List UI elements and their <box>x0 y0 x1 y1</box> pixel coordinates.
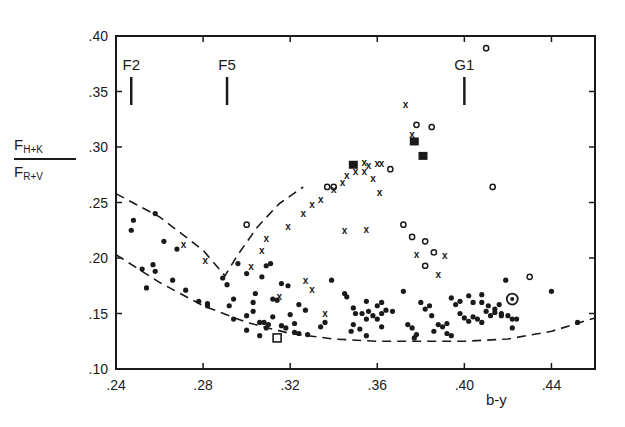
dot-point <box>429 313 434 318</box>
dot-point <box>174 247 179 252</box>
dot-point <box>257 333 262 338</box>
open-circle-point <box>388 167 393 172</box>
dot-point <box>401 289 406 294</box>
dot-point <box>575 320 580 325</box>
y-tick-label: .25 <box>89 195 109 211</box>
open-circle-point <box>431 250 436 255</box>
y-axis-label: FH+K FR+V <box>14 137 76 182</box>
cross-point: x <box>309 199 315 210</box>
dot-point <box>379 311 384 316</box>
dot-point <box>231 296 236 301</box>
dot-point <box>224 282 229 287</box>
x-tick-label: .24 <box>106 377 126 393</box>
cross-point: x <box>300 208 306 219</box>
data-points: xxxxxxxxxxxxxxxxxxxxxxxxxxxxxxx <box>129 46 581 342</box>
open-circle-point <box>325 184 330 189</box>
dot-point <box>449 295 454 300</box>
y-tick-label: .10 <box>89 361 109 377</box>
plot-border <box>116 36 595 369</box>
dot-point <box>375 303 380 308</box>
dot-point <box>449 333 454 338</box>
dot-point <box>196 299 201 304</box>
dot-point <box>479 300 484 305</box>
ringed-dot-inner <box>510 297 514 301</box>
dot-point <box>353 311 358 316</box>
spectral-type-markers: F2F5G1 <box>122 56 474 105</box>
y-tick-label: .40 <box>89 28 109 44</box>
y-label-numerator: FH+K <box>14 137 76 160</box>
dot-point <box>499 311 504 316</box>
dot-point <box>444 321 449 326</box>
dot-point <box>244 313 249 318</box>
cross-point: x <box>364 224 370 235</box>
dot-point <box>357 326 362 331</box>
dot-point <box>305 332 310 337</box>
x-tick-label: .36 <box>368 377 388 393</box>
y-axis-ticks: .10.15.20.25.30.35.40 <box>89 28 595 377</box>
y-tick-label: .30 <box>89 139 109 155</box>
cross-point: x <box>285 221 291 232</box>
dot-point <box>364 333 369 338</box>
x-tick-label: .28 <box>193 377 213 393</box>
dot-point <box>375 316 380 321</box>
dot-point <box>431 329 436 334</box>
open-square-point <box>273 334 281 342</box>
cross-point: x <box>181 239 187 250</box>
cross-point: x <box>435 269 441 280</box>
dot-point <box>379 300 384 305</box>
dot-point <box>475 316 480 321</box>
lower-boundary <box>116 255 595 342</box>
dot-point <box>364 299 369 304</box>
dot-point <box>486 303 491 308</box>
dot-point <box>349 329 354 334</box>
dot-point <box>370 313 375 318</box>
dot-point <box>405 322 410 327</box>
dot-point <box>497 302 502 307</box>
dot-point <box>457 299 462 304</box>
dot-point <box>270 314 275 319</box>
cross-point: x <box>403 99 409 110</box>
dot-point <box>235 261 240 266</box>
cross-point: x <box>379 158 385 169</box>
cross-point: x <box>303 275 309 286</box>
open-circle-point <box>244 222 249 227</box>
dot-point <box>462 315 467 320</box>
plot-frame <box>116 36 595 369</box>
dot-point <box>251 309 256 314</box>
cross-point: x <box>202 255 208 266</box>
x-axis-label: b-y <box>486 391 507 408</box>
open-circle-point <box>410 234 415 239</box>
cross-point: x <box>342 225 348 236</box>
dot-point <box>170 278 175 283</box>
dot-point <box>251 300 256 305</box>
dot-point <box>410 325 415 330</box>
dot-point <box>292 321 297 326</box>
cross-point: x <box>277 291 283 302</box>
dot-point <box>140 267 145 272</box>
dot-point <box>292 330 297 335</box>
dot-point <box>479 292 484 297</box>
spectral-marker-label: F5 <box>218 56 236 73</box>
y-tick-label: .20 <box>89 250 109 266</box>
scatter-chart: .24.28.32.36.40.44 .10.15.20.25.30.35.40… <box>0 0 625 427</box>
y-tick-label: .35 <box>89 84 109 100</box>
dot-point <box>383 308 388 313</box>
cross-point: x <box>344 170 350 181</box>
filled-square-point <box>349 161 358 169</box>
cross-point: x <box>309 284 315 295</box>
dot-point <box>161 239 166 244</box>
dot-point <box>231 316 236 321</box>
dot-point <box>205 301 210 306</box>
cross-point: x <box>318 194 324 205</box>
dot-point <box>227 303 232 308</box>
dot-point <box>457 311 462 316</box>
dot-point <box>418 300 423 305</box>
cross-point: x <box>248 261 254 272</box>
dot-point <box>296 331 301 336</box>
dot-point <box>453 302 458 307</box>
dot-point <box>505 313 510 318</box>
dot-point <box>503 278 508 283</box>
spectral-marker-label: F2 <box>122 56 140 73</box>
dot-point <box>351 322 356 327</box>
dot-point <box>492 310 497 315</box>
